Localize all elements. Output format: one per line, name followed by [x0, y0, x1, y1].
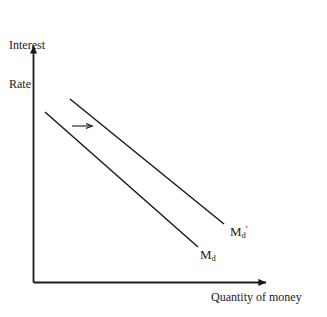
x-axis-label: Quantity of money: [211, 291, 302, 304]
money-demand-shift-diagram: Interest Rate Quantity of money Md Md': [0, 0, 327, 317]
money-demand-curve-md: [45, 112, 198, 247]
curve-label-md: Md: [200, 247, 216, 263]
y-axis-label: Interest Rate: [9, 13, 45, 117]
curve-label-md-base: M: [200, 247, 212, 262]
y-axis-label-line-2: Rate: [9, 78, 45, 91]
curve-label-md-prime-mark: ': [246, 224, 248, 235]
curve-label-md-subscript: d: [212, 253, 216, 263]
y-axis-label-line-1: Interest: [9, 39, 45, 52]
money-demand-curve-md-prime: [70, 99, 224, 224]
curve-label-md-prime-base: M: [230, 224, 242, 239]
curve-label-md-prime: Md': [230, 224, 248, 240]
diagram-canvas: [0, 0, 327, 317]
